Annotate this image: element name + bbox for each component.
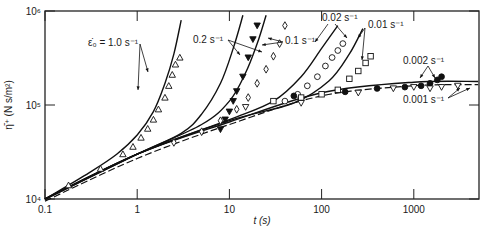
pointer-arrow bbox=[362, 28, 365, 60]
data-point-triangle-down bbox=[355, 90, 361, 96]
arrowhead-icon bbox=[258, 49, 262, 52]
pointer-arrow bbox=[140, 44, 148, 72]
y-tick-label: 10⁴ bbox=[26, 194, 41, 205]
data-point-triangle-down bbox=[250, 37, 256, 43]
data-point-triangle-down bbox=[438, 85, 444, 91]
data-point-square bbox=[347, 76, 352, 81]
data-point-triangle-up bbox=[130, 144, 136, 150]
data-point-square bbox=[368, 54, 373, 59]
data-point-triangle-up bbox=[162, 94, 168, 100]
y-tick-label: 10⁶ bbox=[26, 6, 41, 17]
arrowhead-icon bbox=[262, 43, 266, 46]
rate-label: 0.01 s⁻¹ bbox=[368, 19, 404, 30]
x-axis-title: t (s) bbox=[253, 215, 270, 226]
rate-label: 0.2 s⁻¹ bbox=[193, 34, 224, 45]
data-point-triangle-down bbox=[254, 23, 260, 29]
data-point-circle bbox=[427, 80, 433, 86]
data-point-circle bbox=[439, 74, 445, 80]
data-point-circle bbox=[340, 41, 346, 47]
data-point-triangle-down bbox=[217, 127, 223, 133]
data-point-triangle-down bbox=[427, 86, 433, 92]
data-series bbox=[271, 54, 374, 104]
data-point-triangle-up bbox=[138, 134, 144, 140]
rate-label: 0.002 s⁻¹ bbox=[403, 55, 445, 66]
data-point-triangle-up bbox=[172, 61, 178, 67]
data-point-circle bbox=[329, 55, 335, 61]
arrowhead-icon bbox=[137, 86, 140, 90]
x-tick-label: 100 bbox=[313, 204, 330, 215]
theory-curve bbox=[45, 29, 363, 199]
rate-label: 0.1 s⁻¹ bbox=[285, 35, 316, 46]
data-point-triangle-up bbox=[169, 72, 175, 78]
data-point-circle bbox=[418, 83, 424, 89]
data-point-triangle-down bbox=[240, 74, 246, 80]
rate-label: 0.001 s⁻¹ bbox=[403, 94, 445, 105]
data-point-circle bbox=[282, 98, 288, 104]
data-point-triangle-up bbox=[145, 125, 151, 131]
arrowhead-icon bbox=[420, 74, 423, 78]
data-point-circle bbox=[374, 86, 380, 92]
data-point-circle bbox=[342, 89, 348, 95]
data-point-square bbox=[298, 95, 303, 100]
data-point-triangle-down bbox=[411, 85, 417, 91]
x-tick-label: 1 bbox=[134, 204, 140, 215]
y-tick-label: 10⁵ bbox=[26, 100, 41, 111]
data-point-diamond bbox=[271, 52, 275, 60]
data-point-diamond bbox=[264, 65, 268, 73]
data-point-square bbox=[356, 68, 361, 73]
data-point-triangle-down bbox=[230, 99, 236, 105]
data-point-diamond bbox=[283, 22, 287, 30]
rate-label: 0.02 s⁻¹ bbox=[322, 12, 358, 23]
data-point-square bbox=[363, 60, 368, 65]
annotations: ε̇₀ = 1.0 s⁻¹0.2 s⁻¹0.1 s⁻¹0.02 s⁻¹0.01 … bbox=[88, 12, 470, 105]
data-point-diamond bbox=[246, 94, 250, 102]
x-tick-label: 1000 bbox=[403, 204, 426, 215]
data-point-triangle-down bbox=[298, 100, 304, 106]
data-point-square bbox=[319, 92, 324, 97]
y-axis-title: η̄⁺ (N s/m²) bbox=[3, 80, 14, 129]
data-point-triangle-up bbox=[65, 182, 71, 188]
data-point-square bbox=[335, 87, 340, 92]
x-tick-label: 0.1 bbox=[38, 204, 52, 215]
data-point-triangle-down bbox=[226, 109, 232, 115]
data-point-diamond bbox=[234, 105, 238, 113]
x-tick-label: 10 bbox=[224, 204, 236, 215]
data-series bbox=[65, 54, 183, 188]
rate-label: ε̇₀ = 1.0 s⁻¹ bbox=[88, 37, 139, 48]
data-point-square bbox=[271, 98, 276, 103]
arrowhead-icon bbox=[315, 38, 318, 42]
arrowhead-icon bbox=[145, 68, 148, 72]
data-point-triangle-up bbox=[177, 54, 183, 60]
data-point-circle bbox=[335, 48, 341, 54]
data-point-triangle-up bbox=[166, 83, 172, 89]
data-point-circle bbox=[315, 74, 321, 80]
data-point-circle bbox=[291, 93, 297, 99]
data-point-triangle-down bbox=[242, 105, 248, 111]
data-point-triangle-up bbox=[150, 116, 156, 122]
data-point-circle bbox=[323, 63, 329, 69]
data-point-triangle-down bbox=[390, 86, 396, 92]
chart: 0.1110100100010⁴10⁵10⁶ ε̇₀ = 1.0 s⁻¹0.2 … bbox=[0, 0, 490, 229]
pointer-arrow bbox=[138, 44, 140, 90]
data-point-circle bbox=[402, 84, 408, 90]
data-point-circle bbox=[304, 83, 310, 89]
data-point-diamond bbox=[255, 79, 259, 87]
